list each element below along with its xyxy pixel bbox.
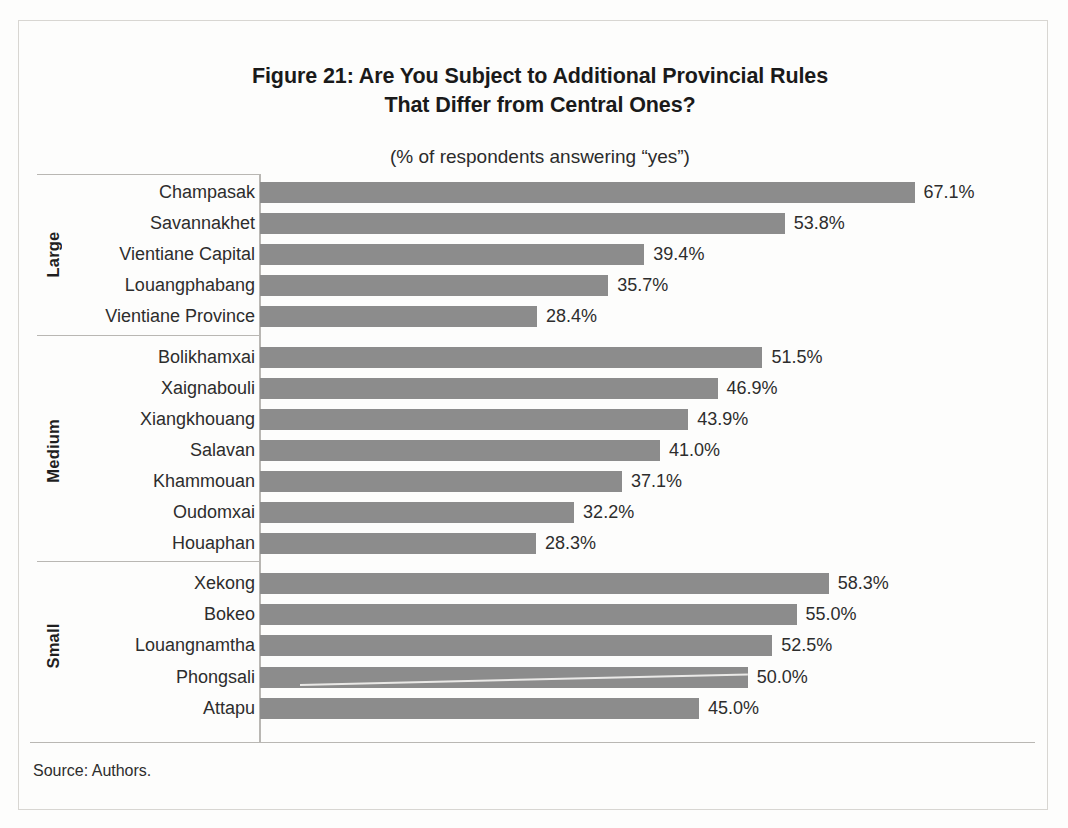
bar-row: Savannakhet53.8% (0, 208, 1068, 239)
bar-row: Xiangkhouang43.9% (0, 404, 1068, 435)
bar-chart: Champasak67.1%Savannakhet53.8%Vientiane … (0, 0, 1068, 828)
bar-row: Xekong58.3% (0, 568, 1068, 599)
bar-value-label: 43.9% (697, 404, 748, 435)
group-separator (37, 335, 260, 336)
category-label: Louangphabang (125, 270, 255, 301)
bar-value-label: 46.9% (727, 373, 778, 404)
bar-row: Bokeo55.0% (0, 599, 1068, 630)
figure-page: Figure 21: Are You Subject to Additional… (0, 0, 1068, 828)
bar-value-label: 51.5% (771, 342, 822, 373)
bar-value-label: 55.0% (806, 599, 857, 630)
bar-value-label: 37.1% (631, 466, 682, 497)
bar-row: Xaignabouli46.9% (0, 373, 1068, 404)
category-label: Louangnamtha (135, 630, 255, 661)
bar-row: Vientiane Province28.4% (0, 301, 1068, 332)
bar-row: Vientiane Capital39.4% (0, 239, 1068, 270)
bar-row: Attapu45.0% (0, 693, 1068, 724)
bar (260, 409, 688, 430)
bar-value-label: 58.3% (838, 568, 889, 599)
category-label: Vientiane Province (105, 301, 255, 332)
category-label: Oudomxai (173, 497, 255, 528)
bar-value-label: 28.4% (546, 301, 597, 332)
bar-value-label: 52.5% (781, 630, 832, 661)
bar (260, 378, 718, 399)
category-label: Phongsali (176, 662, 255, 693)
group-label-large: Large (33, 177, 73, 333)
bar (260, 502, 574, 523)
category-label: Houaphan (172, 528, 255, 559)
source-note: Source: Authors. (33, 762, 151, 780)
bar (260, 604, 797, 625)
bar-value-label: 35.7% (617, 270, 668, 301)
bar (260, 533, 536, 554)
category-label: Xaignabouli (161, 373, 255, 404)
category-label: Khammouan (153, 466, 255, 497)
category-label: Attapu (203, 693, 255, 724)
bottom-rule (30, 742, 1035, 743)
group-separator (37, 174, 260, 175)
bar-value-label: 50.0% (757, 662, 808, 693)
category-label: Savannakhet (150, 208, 255, 239)
bar (260, 440, 660, 461)
bar (260, 244, 644, 265)
bar (260, 347, 762, 368)
group-label-small: Small (33, 568, 73, 724)
group-label-medium: Medium (33, 342, 73, 560)
bar-value-label: 28.3% (545, 528, 596, 559)
bar-row: Louangphabang35.7% (0, 270, 1068, 301)
bar (260, 471, 622, 492)
bar-row: Phongsali50.0% (0, 662, 1068, 693)
bar-value-label: 67.1% (924, 177, 975, 208)
category-label: Vientiane Capital (119, 239, 255, 270)
bar-row: Khammouan37.1% (0, 466, 1068, 497)
bar-row: Champasak67.1% (0, 177, 1068, 208)
bar-row: Oudomxai32.2% (0, 497, 1068, 528)
bar-row: Houaphan28.3% (0, 528, 1068, 559)
bar (260, 635, 772, 656)
category-label: Bokeo (204, 599, 255, 630)
bar (260, 182, 915, 203)
category-label: Xekong (194, 568, 255, 599)
category-label: Bolikhamxai (158, 342, 255, 373)
bar (260, 306, 537, 327)
bar-row: Louangnamtha52.5% (0, 630, 1068, 661)
bar-row: Salavan41.0% (0, 435, 1068, 466)
bar-value-label: 39.4% (653, 239, 704, 270)
bar-row: Bolikhamxai51.5% (0, 342, 1068, 373)
category-label: Xiangkhouang (140, 404, 255, 435)
source-rule (30, 752, 1035, 753)
bar-value-label: 41.0% (669, 435, 720, 466)
category-label: Salavan (190, 435, 255, 466)
category-label: Champasak (159, 177, 255, 208)
bar (260, 573, 829, 594)
bar-value-label: 53.8% (794, 208, 845, 239)
bar (260, 275, 608, 296)
bar (260, 698, 699, 719)
bar-value-label: 45.0% (708, 693, 759, 724)
group-separator (37, 561, 260, 562)
bar-value-label: 32.2% (583, 497, 634, 528)
bar (260, 213, 785, 234)
